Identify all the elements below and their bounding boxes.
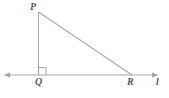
geometry-figure: P Q R l — [0, 0, 169, 98]
vertex-label-p: P — [30, 2, 36, 12]
line-l-group — [4, 72, 159, 77]
right-angle-marker-at-q — [39, 68, 47, 76]
line-label-l: l — [156, 77, 159, 87]
line-l-left-arrowhead — [4, 72, 11, 77]
vertex-label-r: R — [127, 77, 134, 87]
segment-pr-hypotenuse — [39, 12, 133, 75]
geometry-diagram-canvas — [0, 0, 169, 98]
vertex-label-q: Q — [35, 77, 42, 87]
